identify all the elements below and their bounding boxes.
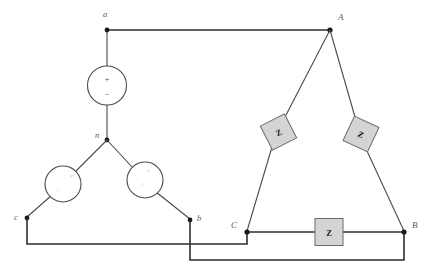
- source-bn-symbol: [127, 162, 163, 198]
- wire-z-ca-to-C: [247, 147, 272, 231]
- source-an-plus: +: [105, 75, 110, 84]
- node-A-label: A: [337, 12, 344, 22]
- node-B-dot: [401, 229, 406, 234]
- wire-A-to-z-ab: [330, 30, 355, 117]
- node-a-label: a: [103, 9, 107, 19]
- wire-source-cn-to-c: [27, 195, 52, 217]
- node-n-label: n: [95, 130, 99, 140]
- wire-n-to-source-cn: [74, 140, 107, 173]
- node-C-dot: [244, 229, 249, 234]
- wire-z-ab-to-B: [367, 151, 404, 231]
- impedance-z-cb: Z: [315, 219, 343, 246]
- node-c-label: c: [14, 212, 18, 222]
- node-B-label: B: [412, 220, 418, 230]
- z-cb-label: Z: [326, 228, 332, 238]
- wire-n-to-source-bn: [107, 140, 133, 168]
- node-C-label: C: [231, 220, 238, 230]
- impedance-z-ab: Z: [343, 116, 379, 152]
- source-cn-symbol: [45, 166, 81, 202]
- wire-b-to-B: [190, 220, 404, 260]
- impedance-z-ca: Z: [260, 114, 296, 150]
- circuit-diagram-page: + − a n + − + − c b A Z Z Z: [0, 0, 432, 274]
- node-b-label: b: [197, 213, 201, 223]
- circuit-diagram-canvas: + − a n + − + − c b A Z Z Z: [0, 0, 432, 274]
- wire-source-bn-to-b: [156, 192, 190, 219]
- wire-c-to-C: [27, 218, 247, 244]
- source-an-symbol: [88, 66, 127, 105]
- wire-A-to-z-ca: [285, 30, 330, 117]
- source-an-minus: −: [105, 90, 110, 99]
- node-a-dot: [105, 28, 110, 33]
